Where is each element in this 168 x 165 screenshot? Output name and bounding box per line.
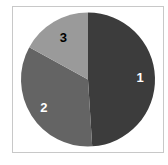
slice-label-3: 3 bbox=[60, 30, 67, 45]
pie-slice-1 bbox=[88, 13, 155, 147]
slice-label-1: 1 bbox=[137, 70, 144, 85]
pie-slices bbox=[21, 13, 155, 147]
slice-label-2: 2 bbox=[40, 100, 47, 115]
pie-chart: 123 bbox=[0, 0, 168, 165]
